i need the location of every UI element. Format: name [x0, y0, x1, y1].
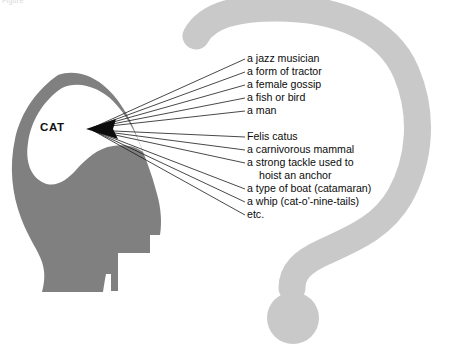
sense-item: hoist an anchor — [247, 169, 371, 182]
sense-item: Felis catus — [247, 130, 371, 143]
sense-list-group-b: Felis catusa carnivorous mammala strong … — [247, 130, 371, 221]
sense-item: a man — [247, 104, 322, 117]
question-mark-dot — [267, 292, 319, 344]
figure-root: Figure CAT a jazz musiciana — [0, 0, 472, 348]
sense-item: a female gossip — [247, 78, 322, 91]
sense-item: a type of boat (catamaran) — [247, 182, 371, 195]
sense-item: a carnivorous mammal — [247, 143, 371, 156]
sense-item: a fish or bird — [247, 91, 322, 104]
sense-item: a form of tractor — [247, 65, 322, 78]
sense-item: a whip (cat-o'-nine-tails) — [247, 195, 371, 208]
thinker-word-label: CAT — [40, 121, 65, 133]
leader-line-1 — [92, 59, 245, 128]
sense-item: etc. — [247, 208, 371, 221]
thinker-head — [12, 73, 161, 292]
sense-item: a jazz musician — [247, 52, 322, 65]
figure-illustration — [0, 0, 472, 348]
sense-item: a strong tackle used to — [247, 156, 371, 169]
sense-list-group-a: a jazz musiciana form of tractora female… — [247, 52, 322, 117]
